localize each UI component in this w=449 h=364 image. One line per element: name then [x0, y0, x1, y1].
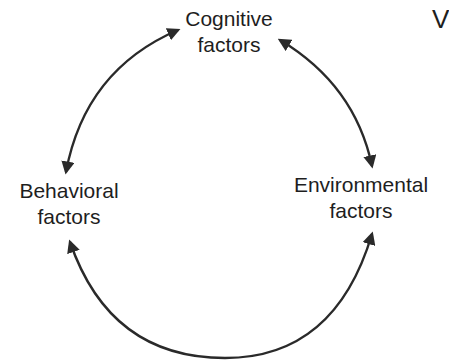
node-environmental-line1: Environmental	[280, 172, 442, 198]
arrow-cognitive-behavioral	[66, 30, 178, 172]
cut-off-text: V	[432, 4, 449, 35]
node-cognitive-line2: factors	[168, 32, 290, 58]
node-environmental-line2: factors	[280, 198, 442, 224]
node-behavioral-line1: Behavioral	[4, 178, 134, 204]
arrow-behavioral-environmental	[70, 234, 372, 358]
node-cognitive-line1: Cognitive	[168, 6, 290, 32]
node-behavioral-line2: factors	[4, 204, 134, 230]
arrow-cognitive-environmental	[280, 40, 372, 166]
node-behavioral: Behavioral factors	[4, 178, 134, 230]
node-environmental: Environmental factors	[280, 172, 442, 224]
node-cognitive: Cognitive factors	[168, 6, 290, 58]
